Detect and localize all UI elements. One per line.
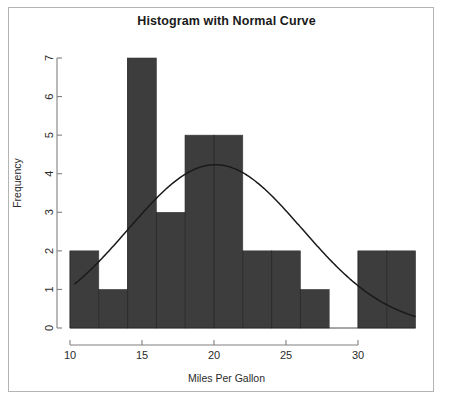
histogram-bar <box>243 251 272 328</box>
histogram-bar <box>185 135 214 328</box>
y-axis-tick-label: 6 <box>43 94 55 100</box>
histogram-bar <box>156 212 185 328</box>
histogram-figure: Histogram with Normal Curve 1015202530 0… <box>0 0 453 406</box>
histogram-bar <box>70 251 99 328</box>
histogram-bar <box>387 251 416 328</box>
y-axis-tick-label: 3 <box>43 209 55 215</box>
y-axis-label: Frequency <box>11 128 23 238</box>
y-axis-tick-label: 4 <box>43 171 55 177</box>
histogram-bars <box>70 58 416 328</box>
histogram-bar <box>300 289 329 328</box>
x-axis-tick-label: 20 <box>208 349 220 361</box>
x-axis-tick-label: 25 <box>280 349 292 361</box>
x-axis: 1015202530 <box>64 340 364 361</box>
y-axis: 01234567 <box>43 55 62 331</box>
chart-canvas: 1015202530 01234567 <box>0 0 453 406</box>
y-axis-tick-label: 1 <box>43 286 55 292</box>
x-axis-label: Miles Per Gallon <box>0 372 453 384</box>
histogram-bar <box>99 289 128 328</box>
x-axis-tick-label: 15 <box>136 349 148 361</box>
histogram-bar <box>128 58 157 328</box>
x-axis-tick-label: 10 <box>64 349 76 361</box>
y-axis-tick-label: 7 <box>43 55 55 61</box>
histogram-bar <box>272 251 301 328</box>
y-axis-tick-label: 5 <box>43 132 55 138</box>
y-axis-tick-label: 0 <box>43 325 55 331</box>
x-axis-tick-label: 30 <box>352 349 364 361</box>
y-axis-tick-label: 2 <box>43 248 55 254</box>
